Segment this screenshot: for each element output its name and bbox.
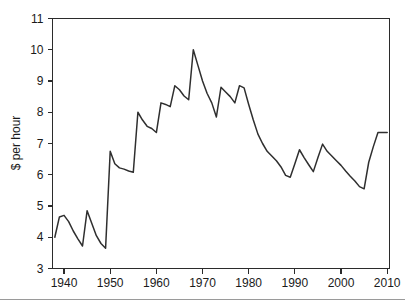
y-tick-label: 10 [30, 43, 44, 57]
data-line-real-minimum-wage [55, 50, 387, 248]
x-tick-label: 2010 [374, 276, 401, 290]
data-series-group [55, 50, 387, 248]
x-tick-label: 1940 [51, 276, 78, 290]
x-tick-label: 1950 [97, 276, 124, 290]
x-tick-label: 1960 [143, 276, 170, 290]
plot-frame [53, 19, 390, 269]
chart-container: 34567891011 1940195019601970198019902000… [0, 0, 405, 307]
y-axis-ticks: 34567891011 [30, 12, 52, 276]
y-tick-label: 9 [37, 74, 44, 88]
y-tick-label: 8 [37, 105, 44, 119]
plot-border [53, 19, 390, 269]
y-tick-label: 4 [37, 230, 44, 244]
x-tick-label: 1990 [282, 276, 309, 290]
x-tick-label: 1970 [189, 276, 216, 290]
minimum-wage-line-chart: 34567891011 1940195019601970198019902000… [0, 0, 405, 307]
x-axis-ticks: 19401950196019701980199020002010 [51, 269, 401, 290]
x-tick-label: 1980 [235, 276, 262, 290]
y-tick-label: 6 [37, 168, 44, 182]
y-axis-title: $ per hour [9, 116, 23, 171]
y-tick-label: 5 [37, 199, 44, 213]
x-tick-label: 2000 [328, 276, 355, 290]
y-tick-label: 7 [37, 137, 44, 151]
y-tick-label: 3 [37, 262, 44, 276]
y-tick-label: 11 [31, 12, 44, 26]
